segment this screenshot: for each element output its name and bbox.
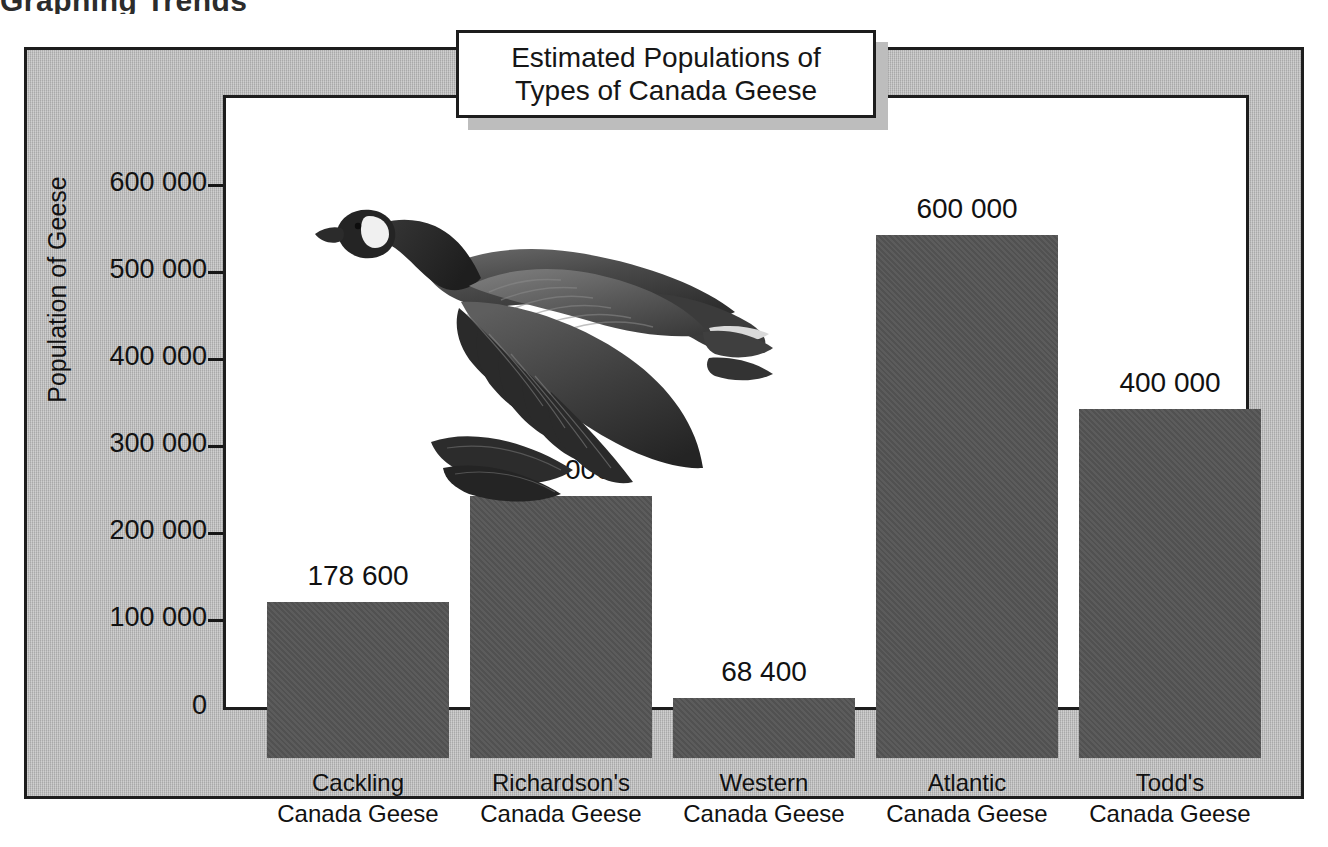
bar-todds[interactable]: 400 000	[1079, 95, 1261, 758]
y-axis-tick-mark	[208, 358, 223, 361]
cropped-headline: Graphing Trends	[0, 0, 560, 14]
y-axis-tick-mark	[208, 445, 223, 448]
y-axis-title: Population of Geese	[43, 110, 72, 470]
y-axis-tick-label: 500 000	[0, 254, 207, 285]
bar-series: 178 600 300 000 68 400 600 000 400 000	[250, 95, 1276, 758]
chart-title-plaque: Estimated Populations of Types of Canada…	[456, 30, 876, 118]
bar-richardsons[interactable]: 300 000	[470, 95, 652, 758]
x-axis-label-western: Western Canada Geese	[673, 768, 855, 829]
y-axis-tick-label: 200 000	[0, 515, 207, 546]
bar-atlantic[interactable]: 600 000	[876, 95, 1058, 758]
bar-rect	[673, 698, 855, 758]
y-axis-tick-label: 400 000	[0, 341, 207, 372]
bar-rect	[470, 496, 652, 758]
bar-value-label: 300 000	[510, 454, 611, 486]
bar-value-label: 178 600	[307, 560, 408, 592]
bar-value-label: 600 000	[916, 193, 1017, 225]
figure-frame: Population of Geese 600 000 500 000 400 …	[24, 47, 1304, 799]
y-axis-tick-label: 100 000	[0, 602, 207, 633]
bar-western[interactable]: 68 400	[673, 95, 855, 758]
bar-value-label: 400 000	[1119, 367, 1220, 399]
bar-value-label: 68 400	[721, 656, 807, 688]
y-axis-tick-mark	[208, 619, 223, 622]
bar-cackling[interactable]: 178 600	[267, 95, 449, 758]
bar-rect	[876, 235, 1058, 758]
x-axis-label-atlantic: Atlantic Canada Geese	[876, 768, 1058, 829]
x-axis-label-cackling: Cackling Canada Geese	[267, 768, 449, 829]
x-axis-label-richardsons: Richardson's Canada Geese	[462, 768, 660, 829]
y-axis-tick-mark	[208, 271, 223, 274]
y-axis-tick-mark	[208, 184, 223, 187]
chart-title: Estimated Populations of Types of Canada…	[511, 41, 821, 107]
bar-rect	[1079, 409, 1261, 758]
y-axis-tick-label: 600 000	[0, 167, 207, 198]
bar-rect	[267, 602, 449, 758]
y-axis-tick-label: 0	[0, 690, 207, 721]
y-axis-tick-label: 300 000	[0, 428, 207, 459]
x-axis-label-todds: Todd's Canada Geese	[1079, 768, 1261, 829]
y-axis-tick-mark	[208, 532, 223, 535]
x-axis-labels: Cackling Canada Geese Richardson's Canad…	[250, 768, 1276, 847]
